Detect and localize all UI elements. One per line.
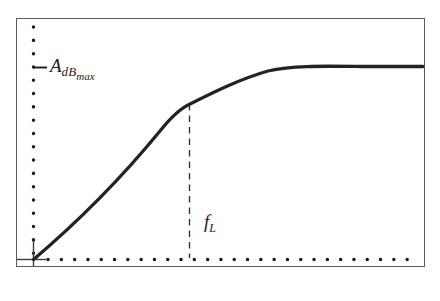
plot-canvas (0, 0, 440, 301)
gain-response-curve (34, 66, 424, 259)
cutoff-frequency-label: fL (204, 212, 216, 234)
gain-max-label-main: A (50, 55, 62, 76)
gain-max-label-sub: dB (62, 64, 77, 79)
frequency-response-figure: AdBmax fL (0, 0, 440, 301)
gain-max-label-sub2: max (76, 70, 94, 82)
cutoff-frequency-label-sub: L (209, 221, 216, 235)
gain-max-label: AdBmax (50, 56, 95, 82)
